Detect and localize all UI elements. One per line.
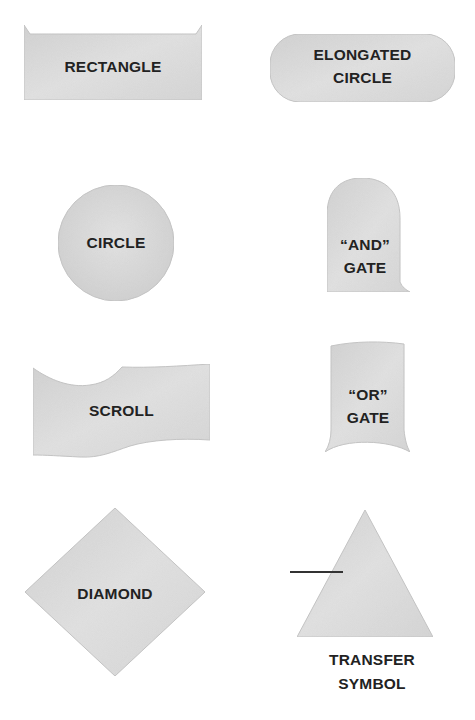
scroll-label-line-1: SCROLL bbox=[33, 399, 210, 422]
diamond-label-line-1: DIAMOND bbox=[25, 582, 205, 605]
circle-label: CIRCLE bbox=[58, 231, 174, 254]
shapes-canvas bbox=[0, 0, 475, 720]
or-gate-label: “OR” GATE bbox=[328, 383, 408, 429]
elongated-circle-label-line-1: ELONGATED bbox=[270, 43, 455, 66]
and-gate-label: “AND” GATE bbox=[325, 233, 405, 279]
diamond-label: DIAMOND bbox=[25, 582, 205, 605]
transfer-triangle-shape bbox=[297, 510, 433, 637]
and-gate-label-line-2: GATE bbox=[325, 256, 405, 279]
and-gate-label-line-1: “AND” bbox=[325, 233, 405, 256]
rectangle-label-line-1: RECTANGLE bbox=[24, 55, 202, 78]
or-gate-label-line-2: GATE bbox=[328, 406, 408, 429]
or-gate-label-line-1: “OR” bbox=[328, 383, 408, 406]
transfer-symbol-label-line-1: TRANSFER bbox=[302, 648, 442, 672]
rectangle-label: RECTANGLE bbox=[24, 55, 202, 78]
transfer-symbol-label: TRANSFER SYMBOL bbox=[302, 648, 442, 696]
elongated-circle-label-line-2: CIRCLE bbox=[270, 66, 455, 89]
transfer-symbol-label-line-2: SYMBOL bbox=[302, 672, 442, 696]
scroll-label: SCROLL bbox=[33, 399, 210, 422]
elongated-circle-label: ELONGATED CIRCLE bbox=[270, 43, 455, 89]
circle-label-line-1: CIRCLE bbox=[58, 231, 174, 254]
